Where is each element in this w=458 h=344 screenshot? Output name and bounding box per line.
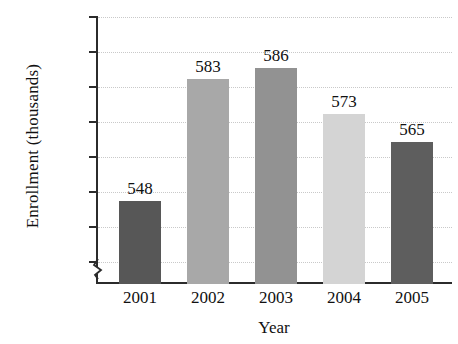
bar-value-label: 586 (241, 47, 311, 65)
bar-group: 565 (391, 18, 433, 284)
bar-value-label: 548 (105, 180, 175, 198)
y-tick-mark (89, 121, 98, 123)
y-tick-mark (89, 191, 98, 193)
bar (119, 201, 161, 284)
y-axis-title: Enrollment (thousands) (23, 1, 43, 291)
y-tick-mark (89, 261, 98, 263)
y-tick-mark (89, 86, 98, 88)
bar (187, 79, 229, 285)
bar-value-label: 565 (377, 121, 447, 139)
x-tick-label: 2005 (372, 288, 452, 307)
bar-chart-figure: Enrollment (thousands) 53054055056057058… (0, 0, 458, 344)
bar (323, 114, 365, 285)
x-axis-title: Year (96, 318, 452, 338)
bar-group: 548 (119, 18, 161, 284)
y-tick-mark (89, 156, 98, 158)
bar-group: 586 (255, 18, 297, 284)
y-tick-mark (89, 226, 98, 228)
bar-value-label: 583 (173, 58, 243, 76)
y-axis-line (96, 16, 98, 267)
y-tick-mark (89, 51, 98, 53)
bar-group: 583 (187, 18, 229, 284)
y-tick-mark (89, 16, 98, 18)
plot-area: 530540550560570580590600 548583586573565… (96, 16, 452, 284)
bar-group: 573 (323, 18, 365, 284)
bar (391, 142, 433, 285)
bar-value-label: 573 (309, 93, 379, 111)
bar (255, 68, 297, 284)
